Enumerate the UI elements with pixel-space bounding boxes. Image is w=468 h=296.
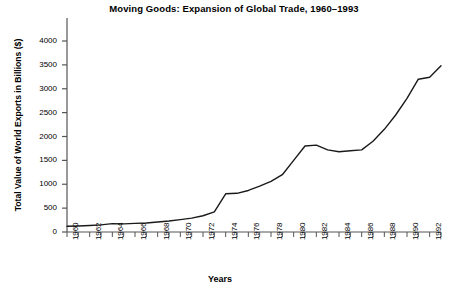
x-tick-label: 1962	[94, 223, 103, 240]
chart-container: Moving Goods: Expansion of Global Trade,…	[0, 0, 468, 296]
x-tick-label: 1992	[434, 223, 443, 240]
x-tick-label: 1964	[116, 223, 125, 240]
x-tick-label: 1984	[343, 223, 352, 240]
y-tick-label: 0	[25, 227, 57, 236]
x-tick-label: 1972	[207, 223, 216, 240]
x-tick-label: 1982	[320, 223, 329, 240]
y-tick-label: 4000	[25, 36, 57, 45]
x-tick-label: 1966	[139, 223, 148, 240]
x-tick-label: 1960	[71, 223, 80, 240]
x-tick-label: 1968	[162, 223, 171, 240]
x-tick-label: 1978	[275, 223, 284, 240]
y-tick-label: 500	[25, 203, 57, 212]
y-tick-label: 3000	[25, 84, 57, 93]
y-tick-label: 1500	[25, 155, 57, 164]
x-tick-label: 1970	[184, 223, 193, 240]
y-tick-label: 3500	[25, 60, 57, 69]
x-tick-label: 1986	[366, 223, 375, 240]
x-tick-label: 1990	[411, 223, 420, 240]
y-tick-label: 2500	[25, 108, 57, 117]
axes	[67, 18, 441, 232]
x-tick-label: 1980	[298, 223, 307, 240]
plot-area	[0, 0, 468, 296]
y-tick-marks	[62, 41, 67, 232]
y-tick-label: 1000	[25, 179, 57, 188]
data-series-world-exports	[67, 66, 441, 226]
x-tick-label: 1988	[388, 223, 397, 240]
y-tick-label: 2000	[25, 132, 57, 141]
x-tick-label: 1976	[252, 223, 261, 240]
x-tick-label: 1974	[230, 223, 239, 240]
